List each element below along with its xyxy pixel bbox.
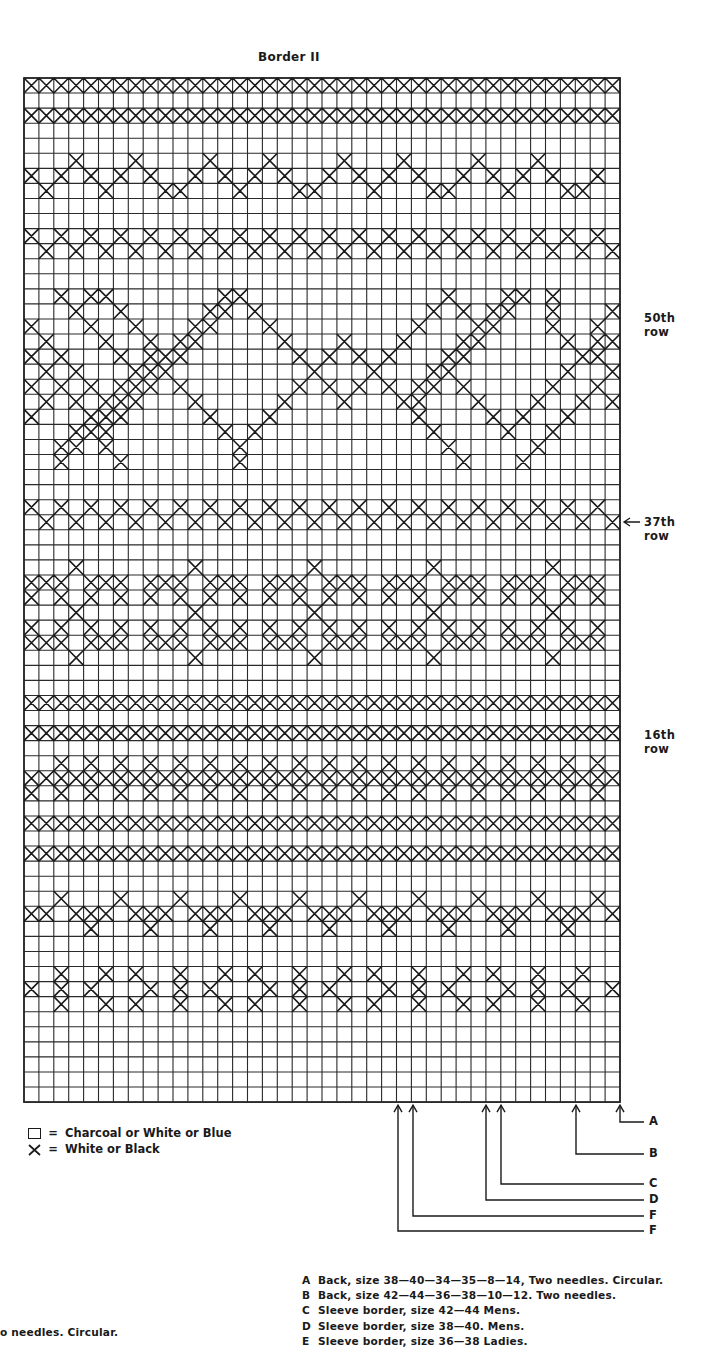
- legend: = Charcoal or White or Blue = White or B…: [28, 1125, 231, 1157]
- row-label: 50th row: [644, 311, 704, 339]
- cross-icon: [28, 1144, 41, 1155]
- callout-letter: B: [649, 1146, 658, 1160]
- callout-letter: C: [649, 1176, 657, 1190]
- cutoff-text-fragment: o needles. Circular.: [0, 1326, 118, 1338]
- callout-line: [501, 1106, 644, 1184]
- callout-letter: F: [649, 1208, 657, 1222]
- callout-letter: D: [649, 1192, 659, 1206]
- legend-item-box: = Charcoal or White or Blue: [28, 1125, 231, 1141]
- callout-letter: F: [649, 1223, 657, 1237]
- note-a: ABack, size 38—40—34—35—8—14, Two needle…: [302, 1273, 663, 1288]
- legend-label: White or Black: [65, 1141, 160, 1157]
- row-label: 37th row: [644, 515, 704, 543]
- callout-letter: A: [649, 1114, 658, 1128]
- callout-line: [620, 1106, 644, 1122]
- legend-label: Charcoal or White or Blue: [65, 1125, 231, 1141]
- callout-line: [398, 1106, 644, 1231]
- callout-line: [576, 1106, 644, 1154]
- legend-item-cross: = White or Black: [28, 1141, 231, 1157]
- knitting-chart: [0, 0, 704, 1260]
- note-c: CSleeve border, size 42—44 Mens.: [302, 1303, 663, 1318]
- empty-square-icon: [28, 1128, 41, 1139]
- note-b: BBack, size 42—44—36—38—10—12. Two needl…: [302, 1288, 663, 1303]
- note-d: DSleeve border, size 38—40. Mens.: [302, 1319, 663, 1334]
- note-e: ESleeve border, size 36—38 Ladies.: [302, 1334, 663, 1349]
- arrow-left-icon: [624, 518, 640, 526]
- size-notes: ABack, size 38—40—34—35—8—14, Two needle…: [302, 1273, 663, 1349]
- row-label: 16th row: [644, 728, 704, 756]
